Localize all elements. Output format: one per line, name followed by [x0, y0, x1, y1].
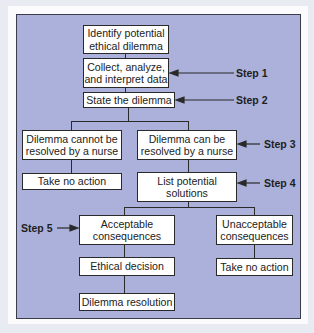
step-arrows	[0, 0, 314, 333]
step-3-label: Step 3	[264, 138, 296, 150]
step-2-label: Step 2	[236, 94, 268, 106]
step-5-label: Step 5	[21, 222, 53, 234]
step-1-label: Step 1	[236, 67, 268, 79]
step-4-label: Step 4	[264, 177, 296, 189]
